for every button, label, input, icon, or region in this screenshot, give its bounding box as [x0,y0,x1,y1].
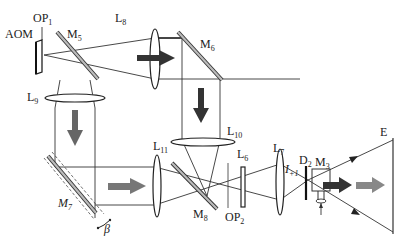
label-aom: AOM [5,27,33,41]
label-l10: L10 [227,124,242,140]
label-l11: L11 [153,139,168,155]
aom-modulator [36,40,42,74]
label-beta: β [103,222,110,236]
label-m7: M7 [57,196,73,212]
lens-l7 [276,149,284,215]
label-m6: M6 [200,37,215,53]
beam-arrow-right-bottom [108,178,146,194]
label-op1: OP1 [33,11,52,27]
label-l8: L8 [115,11,126,27]
mirror-m8 [172,163,217,209]
label-m3: M3 [315,155,330,171]
lens-l10 [171,138,235,146]
label-l6: L6 [237,147,248,163]
optical-setup-diagram: OP1 AOM M5 L8 M6 L9 L10 L11 M7 β M8 OP2 … [0,0,410,245]
label-l7: L7 [273,141,284,157]
label-i1: I+1 [284,162,298,178]
beam-arrow-down-right [193,88,209,123]
label-d2: D2 [299,153,312,169]
lens-l9 [45,94,105,102]
lens-l11 [153,155,161,217]
label-m5: M5 [67,27,82,43]
plate-l6 [241,167,245,207]
beam-arrow-right-gray [356,177,385,193]
beam-arrow-down-left [67,110,83,146]
label-e: E [380,125,387,139]
label-op2: OP2 [225,210,244,226]
label-m8: M8 [193,207,208,223]
light-rays [44,38,393,232]
ray-arrowhead-upper [349,156,358,163]
label-l9: L9 [27,90,38,106]
